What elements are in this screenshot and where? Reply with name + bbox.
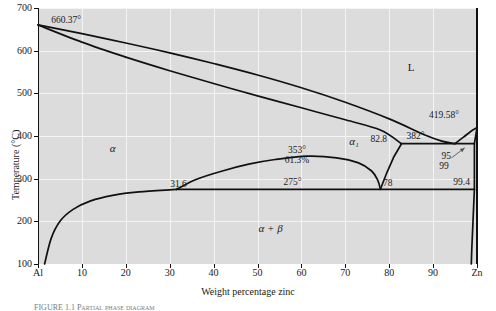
phase-boundary-zinc-liquidus bbox=[455, 128, 477, 144]
x-axis-tick-label: 50 bbox=[243, 268, 273, 278]
x-axis-tick-label: Zn bbox=[462, 268, 492, 278]
x-axis-tick-mark bbox=[345, 264, 346, 268]
phase-boundary-alpha-solvus bbox=[45, 189, 177, 264]
callout-arrowhead bbox=[460, 148, 465, 152]
x-axis-tick-mark bbox=[258, 264, 259, 268]
x-axis-tick-label: 90 bbox=[418, 268, 448, 278]
x-axis-tick-label: 20 bbox=[111, 268, 141, 278]
region-label: α bbox=[110, 142, 116, 154]
x-axis-tick-label: 60 bbox=[286, 268, 316, 278]
figure-caption: FIGURE 1.1 Partial phase diagram bbox=[34, 303, 155, 311]
x-axis-tick-mark bbox=[170, 264, 171, 268]
annotation-label: 275° bbox=[284, 177, 302, 187]
x-axis-tick-mark bbox=[126, 264, 127, 268]
region-label: α + β bbox=[259, 222, 283, 234]
annotation-label: 31.6 bbox=[170, 179, 187, 189]
annotation-label: 660.37° bbox=[51, 15, 81, 25]
phase-diagram-figure: 100200300400500600700Al10203040506070809… bbox=[0, 0, 496, 311]
x-axis-tick-mark bbox=[433, 264, 434, 268]
phase-boundary-miscibility-dome bbox=[177, 156, 381, 189]
annotation-label: 353° bbox=[288, 145, 306, 155]
x-axis-tick-mark bbox=[82, 264, 83, 268]
region-label: α₁ bbox=[349, 135, 359, 147]
x-axis-tick-label: 80 bbox=[374, 268, 404, 278]
region-label: L bbox=[408, 61, 415, 73]
x-axis-tick-mark bbox=[38, 264, 39, 268]
annotation-label: 82.8 bbox=[370, 134, 387, 144]
annotation-label: 99.4 bbox=[453, 177, 470, 187]
x-axis-tick-label: 40 bbox=[199, 268, 229, 278]
phase-boundary-curves bbox=[0, 0, 496, 311]
x-axis-title: Weight percentage zinc bbox=[0, 286, 496, 297]
y-axis-line bbox=[38, 8, 39, 264]
phase-boundary-beta-boundary-right bbox=[471, 189, 474, 264]
y-axis-tick-label: 600 bbox=[2, 46, 32, 56]
x-axis-tick-mark bbox=[389, 264, 390, 268]
y-axis-tick-label: 500 bbox=[2, 88, 32, 98]
x-axis-tick-label: 70 bbox=[330, 268, 360, 278]
x-axis-tick-mark bbox=[477, 264, 478, 268]
x-axis-tick-label: 30 bbox=[155, 268, 185, 278]
annotation-label: 61.3% bbox=[285, 155, 310, 165]
annotation-label: 78 bbox=[383, 178, 393, 188]
y-axis-tick-label: 700 bbox=[2, 3, 32, 13]
annotation-label: 419.58° bbox=[429, 110, 459, 120]
annotation-label: 99 bbox=[439, 161, 449, 171]
x-axis-tick-mark bbox=[214, 264, 215, 268]
annotation-label: 382° bbox=[407, 131, 425, 141]
phase-boundary-solidus bbox=[38, 25, 402, 144]
x-axis-tick-label: Al bbox=[23, 268, 53, 278]
phase-boundary-liquidus bbox=[38, 25, 455, 144]
y-axis-title: Temperature (°C) bbox=[10, 130, 21, 200]
x-axis-tick-mark bbox=[301, 264, 302, 268]
zinc-edge-line bbox=[476, 8, 478, 264]
y-axis-tick-label: 200 bbox=[2, 216, 32, 226]
x-axis-tick-label: 10 bbox=[67, 268, 97, 278]
